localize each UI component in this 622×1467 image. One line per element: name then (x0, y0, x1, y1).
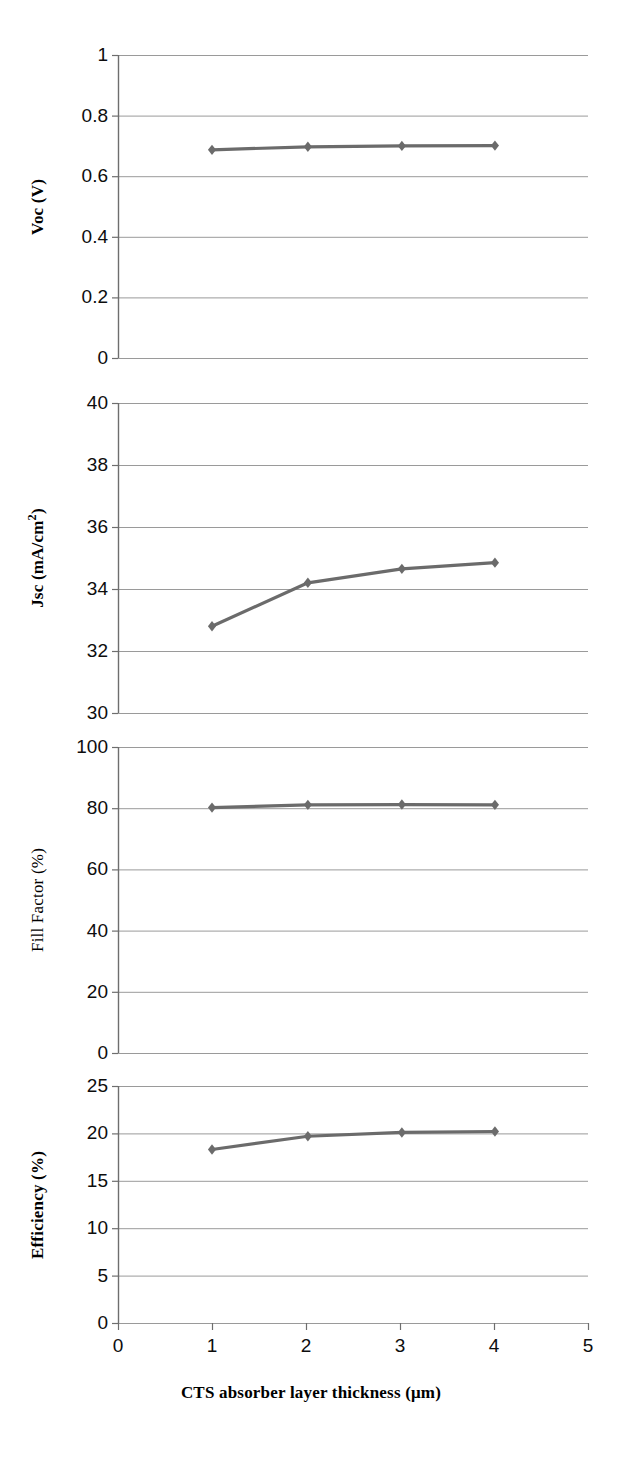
y-tick-label: 20 (0, 1122, 108, 1144)
panel-efficiency: 2520151050Efficiency (%) (0, 0, 622, 1467)
data-point-marker (304, 1131, 312, 1141)
y-tick-label: 0 (0, 1312, 108, 1334)
y-axis-title-efficiency: Efficiency (%) (28, 1150, 48, 1258)
x-tick-label: 1 (207, 1335, 218, 1357)
x-axis-title: CTS absorber layer thickness (μm) (0, 1383, 622, 1403)
x-tick-label: 4 (489, 1335, 500, 1357)
data-point-marker (398, 1127, 406, 1137)
x-tick-label: 2 (301, 1335, 312, 1357)
data-point-marker (208, 1144, 216, 1154)
x-tick-label: 3 (395, 1335, 406, 1357)
y-tick-label: 10 (0, 1217, 108, 1239)
y-tick-label: 5 (0, 1265, 108, 1287)
y-tick-label: 25 (0, 1075, 108, 1097)
data-point-marker (491, 1126, 499, 1136)
figure-multi-panel-chart: 10.80.60.40.20Voc (V)403836343230Jsc (mA… (0, 0, 622, 1467)
x-tick-label: 5 (583, 1335, 594, 1357)
y-tick-label: 15 (0, 1170, 108, 1192)
plot-area-efficiency (0, 0, 622, 1467)
x-tick-label: 0 (113, 1335, 124, 1357)
